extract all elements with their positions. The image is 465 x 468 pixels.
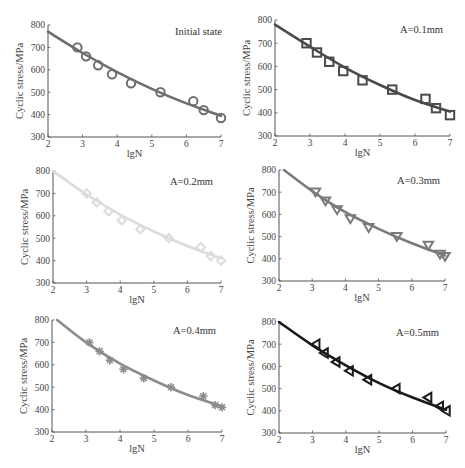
y-tick-label: 400 bbox=[262, 254, 277, 264]
data-point-triangle-left-marker bbox=[392, 384, 400, 393]
panel-annotation: A=0.3mm bbox=[397, 175, 440, 186]
y-tick-label: 700 bbox=[36, 189, 51, 199]
data-point-star-marker bbox=[85, 338, 93, 346]
x-tick-label: 5 bbox=[377, 435, 382, 445]
x-tick-label: 2 bbox=[51, 285, 56, 295]
data-point-star-marker bbox=[199, 392, 207, 400]
y-axis-label: Cyclic stress/MPa bbox=[18, 338, 29, 414]
y-tick-label: 800 bbox=[35, 315, 50, 325]
x-tick-label: 2 bbox=[273, 138, 278, 148]
y-tick-label: 400 bbox=[31, 110, 46, 120]
y-tick-label: 400 bbox=[36, 256, 51, 266]
panel-annotation: A=0.1mm bbox=[400, 24, 443, 35]
x-tick-label: 3 bbox=[84, 285, 89, 295]
x-tick-label: 6 bbox=[186, 434, 191, 444]
x-tick-label: 7 bbox=[443, 283, 448, 293]
x-axis-label: lgN bbox=[127, 148, 143, 159]
y-tick-label: 500 bbox=[35, 383, 50, 393]
y-axis-label: Cyclic stress/MPa bbox=[14, 43, 25, 119]
data-point-star-marker bbox=[140, 374, 148, 382]
y-tick-label: 600 bbox=[31, 65, 46, 75]
y-tick-label: 300 bbox=[31, 132, 46, 142]
y-tick-label: 700 bbox=[31, 43, 46, 53]
data-point-star-marker bbox=[119, 365, 127, 373]
x-tick-label: 7 bbox=[219, 285, 224, 295]
x-axis-label: lgN bbox=[129, 294, 145, 305]
y-tick-label: 400 bbox=[262, 406, 277, 416]
x-tick-label: 2 bbox=[277, 283, 282, 293]
y-tick-label: 700 bbox=[258, 39, 273, 49]
x-tick-label: 3 bbox=[310, 435, 315, 445]
y-tick-label: 300 bbox=[262, 276, 277, 286]
y-tick-label: 300 bbox=[262, 428, 277, 438]
y-axis-label: Cyclic stress/MPa bbox=[241, 40, 252, 116]
data-point-circle-marker bbox=[189, 97, 197, 105]
data-point-star-marker bbox=[106, 356, 114, 364]
y-tick-label: 400 bbox=[258, 108, 273, 118]
y-tick-label: 800 bbox=[31, 20, 46, 30]
y-tick-label: 300 bbox=[35, 427, 50, 437]
y-tick-label: 700 bbox=[262, 188, 277, 198]
y-tick-label: 800 bbox=[258, 15, 273, 25]
x-tick-label: 5 bbox=[376, 283, 381, 293]
y-tick-label: 600 bbox=[262, 362, 277, 372]
x-tick-label: 7 bbox=[219, 139, 224, 149]
x-tick-label: 5 bbox=[152, 434, 157, 444]
y-axis-label: Cyclic stress/MPa bbox=[245, 187, 256, 263]
x-tick-label: 3 bbox=[84, 434, 89, 444]
x-tick-label: 4 bbox=[118, 434, 123, 444]
chart-panel-3: 300400500600700800234567lgNCyclic stress… bbox=[19, 166, 225, 305]
x-tick-label: 7 bbox=[444, 435, 449, 445]
y-tick-label: 500 bbox=[262, 384, 277, 394]
x-tick-label: 7 bbox=[448, 138, 453, 148]
data-point-triangle-down-marker bbox=[440, 253, 449, 261]
fit-curve bbox=[275, 25, 450, 112]
x-tick-label: 2 bbox=[277, 435, 282, 445]
data-point-triangle-left-marker bbox=[312, 340, 320, 349]
chart-panel-5: 300400500600700800234567lgNCyclic stress… bbox=[18, 315, 226, 454]
data-point-triangle-left-marker bbox=[345, 366, 353, 375]
figure-canvas: 300400500600700800234567lgNCyclic stress… bbox=[0, 0, 465, 468]
panel-annotation: A=0.5mm bbox=[396, 327, 439, 338]
y-tick-label: 300 bbox=[258, 131, 273, 141]
y-tick-label: 600 bbox=[35, 360, 50, 370]
y-tick-label: 700 bbox=[35, 338, 50, 348]
x-tick-label: 6 bbox=[409, 283, 414, 293]
x-tick-label: 6 bbox=[410, 435, 415, 445]
data-point-star-marker bbox=[95, 347, 103, 355]
chart-panel-6: 300400500600700800234567lgNCyclic stress… bbox=[245, 317, 450, 455]
data-point-star-marker bbox=[167, 383, 175, 391]
y-tick-label: 800 bbox=[262, 165, 277, 175]
x-axis-label: lgN bbox=[355, 147, 371, 158]
y-axis-label: Cyclic stress/MPa bbox=[19, 189, 30, 265]
x-tick-label: 5 bbox=[151, 285, 156, 295]
y-tick-label: 600 bbox=[258, 62, 273, 72]
y-tick-label: 800 bbox=[36, 166, 51, 176]
y-tick-label: 800 bbox=[262, 317, 277, 327]
x-tick-label: 3 bbox=[310, 283, 315, 293]
x-axis-label: lgN bbox=[129, 443, 145, 454]
panel-annotation: A=0.4mm bbox=[173, 325, 216, 336]
x-tick-label: 5 bbox=[378, 138, 383, 148]
x-tick-label: 2 bbox=[46, 139, 51, 149]
data-point-circle-marker bbox=[108, 70, 116, 78]
panel-annotation: Initial state bbox=[175, 26, 222, 37]
x-tick-label: 6 bbox=[185, 285, 190, 295]
x-tick-label: 4 bbox=[343, 435, 348, 445]
panel-annotation: A=0.2mm bbox=[170, 176, 213, 187]
y-axis-label: Cyclic stress/MPa bbox=[245, 339, 256, 415]
y-tick-label: 600 bbox=[36, 211, 51, 221]
y-tick-label: 500 bbox=[258, 85, 273, 95]
y-tick-label: 300 bbox=[36, 278, 51, 288]
x-axis-label: lgN bbox=[355, 444, 371, 455]
y-tick-label: 500 bbox=[262, 232, 277, 242]
x-tick-label: 2 bbox=[50, 434, 55, 444]
y-tick-label: 600 bbox=[262, 210, 277, 220]
x-tick-label: 6 bbox=[184, 139, 189, 149]
x-tick-label: 6 bbox=[413, 138, 418, 148]
x-tick-label: 3 bbox=[80, 139, 85, 149]
x-tick-label: 4 bbox=[115, 139, 120, 149]
x-tick-label: 4 bbox=[343, 283, 348, 293]
chart-panel-2: 300400500600700800234567lgNCyclic stress… bbox=[241, 15, 454, 158]
y-tick-label: 700 bbox=[262, 340, 277, 350]
